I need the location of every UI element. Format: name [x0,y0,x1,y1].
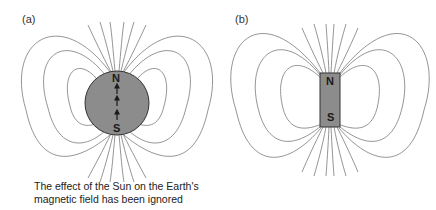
earth-north-label: N [112,72,120,84]
magnetic-field-diagram [0,0,436,210]
magnet-north-label: N [326,75,334,87]
magnet-south-label: S [327,111,334,123]
caption-line-1: The effect of the Sun on the Earth's [34,180,199,193]
caption: The effect of the Sun on the Earth's mag… [34,180,199,206]
caption-line-2: magnetic field has been ignored [34,193,199,206]
earth-south-label: S [113,122,120,134]
panel-b-label: (b) [235,13,248,25]
panel-a-label: (a) [22,13,35,25]
